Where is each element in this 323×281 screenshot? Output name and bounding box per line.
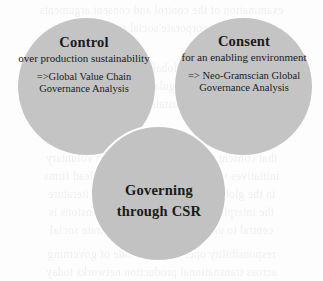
- venn-label-governing: Governing through CSR: [98, 180, 220, 221]
- venn-subtitle-consent: for an enabling environment: [176, 51, 312, 64]
- venn-diagram-figure: examination of the control and consent a…: [0, 0, 323, 281]
- venn-heading-consent: Consent: [176, 33, 312, 50]
- venn-heading-control: Control: [14, 34, 154, 51]
- venn-note-control: =>Global Value Chain Governance Analysis: [14, 71, 154, 95]
- venn-note-consent: => Neo-Gramscian Global Governance Analy…: [176, 70, 312, 94]
- venn-heading-governing: Governing through CSR: [98, 180, 220, 221]
- venn-subtitle-control: over production sustainability: [14, 52, 154, 65]
- venn-label-consent: Consent for an enabling environment => N…: [176, 33, 312, 94]
- venn-label-control: Control over production sustainability =…: [14, 34, 154, 95]
- venn-stage: Control over production sustainability =…: [0, 0, 323, 281]
